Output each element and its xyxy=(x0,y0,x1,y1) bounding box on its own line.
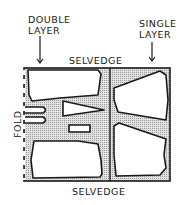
lower-bodice-piece xyxy=(31,141,102,178)
single-layer-arrow-icon xyxy=(149,42,155,61)
sleeve-dart-bottom xyxy=(25,117,46,123)
sleeve-dart-top xyxy=(25,107,46,113)
pattern-layout-diagram xyxy=(0,0,189,205)
upper-bodice-piece xyxy=(28,70,101,101)
small-rectangle-piece xyxy=(69,125,90,132)
double-layer-arrow-icon xyxy=(37,36,43,63)
